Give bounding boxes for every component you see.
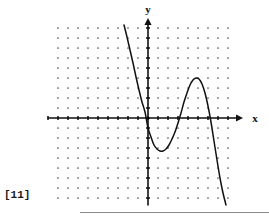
dot-grid [57,27,229,199]
figure-container: x y [11] [0,0,269,220]
cubic-graph-plot: x y [0,0,269,220]
figure-number-label: [11] [4,189,30,202]
y-axis-label: y [145,3,151,15]
arrow-up-icon [144,18,151,25]
bottom-divider [80,212,269,213]
arrow-right-icon [236,114,243,121]
x-axis-label: x [252,112,258,124]
function-curve [124,25,226,205]
